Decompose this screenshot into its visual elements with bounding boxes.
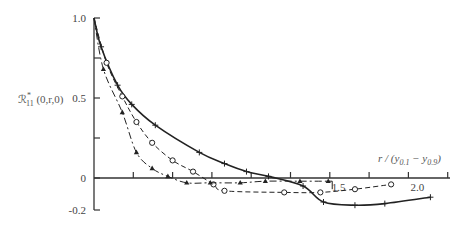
triangle-marker — [120, 110, 125, 115]
x-axis-title: r / (y0.1 − y0.9) — [378, 152, 441, 167]
y-tick-label: 1.0 — [72, 12, 86, 24]
triangle-marker — [134, 150, 139, 155]
circle-marker — [190, 169, 195, 174]
circle-marker — [352, 187, 357, 192]
y-axis-title: ℛ*11 (0,r,0) — [18, 91, 64, 108]
y-ticks: 1.00.50-0.2 — [69, 12, 100, 216]
plus-marker — [196, 149, 202, 155]
circle-marker — [134, 119, 139, 124]
triangle-marker — [263, 178, 268, 183]
circle-marker — [282, 190, 287, 195]
plus-marker — [221, 161, 227, 167]
plus-marker — [321, 199, 327, 205]
x-tick-label: 2.0 — [410, 181, 424, 193]
plus-marker — [382, 201, 388, 207]
circle-marker — [389, 182, 394, 187]
series-line-solid-plus — [94, 18, 430, 205]
series-line-dashed-circle — [94, 18, 391, 193]
circle-marker — [120, 94, 125, 99]
y-tick-label: -0.2 — [69, 204, 86, 216]
correlation-chart: 1.00.50-0.2 1.52.0 ℛ*11 (0,r,0) r / (y0.… — [0, 0, 470, 228]
circle-marker — [104, 60, 109, 65]
plus-marker — [427, 194, 433, 200]
circle-marker — [170, 158, 175, 163]
plus-marker — [243, 169, 249, 175]
data-series — [94, 18, 433, 208]
circle-marker — [222, 188, 227, 193]
y-tick-label: 0 — [81, 172, 87, 184]
triangle-marker — [101, 66, 106, 71]
triangle-marker — [150, 166, 155, 171]
plus-marker — [352, 202, 358, 208]
circle-marker — [318, 190, 323, 195]
y-tick-label: 0.5 — [72, 92, 86, 104]
circle-marker — [150, 140, 155, 145]
